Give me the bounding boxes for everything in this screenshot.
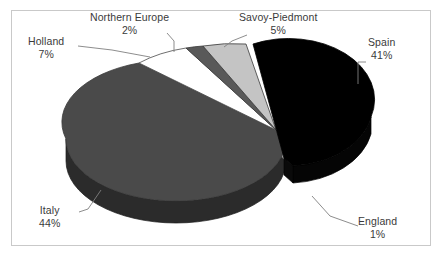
slice-label-italy: Italy 44% xyxy=(39,204,60,229)
slice-label-northern-europe-name: Northern Europe xyxy=(90,11,169,23)
slice-label-northern-europe-value: 2% xyxy=(90,24,169,37)
leader-line-england xyxy=(312,196,358,226)
slice-label-spain-name: Spain xyxy=(368,36,395,48)
slice-label-savoy-piedmont: Savoy-Piedmont 5% xyxy=(239,11,317,36)
slice-label-holland-value: 7% xyxy=(28,48,64,61)
slice-label-holland-name: Holland xyxy=(28,35,64,47)
slice-label-italy-name: Italy xyxy=(40,204,60,216)
slice-label-holland: Holland 7% xyxy=(28,35,64,60)
slice-label-england: England 1% xyxy=(358,215,397,240)
slice-label-savoy-piedmont-name: Savoy-Piedmont xyxy=(239,11,317,23)
slice-label-northern-europe: Northern Europe 2% xyxy=(90,11,169,36)
slice-label-spain-value: 41% xyxy=(368,49,395,62)
slice-label-italy-value: 44% xyxy=(39,217,60,230)
slice-label-england-name: England xyxy=(358,215,397,227)
slice-label-spain: Spain 41% xyxy=(368,36,395,61)
slice-label-savoy-piedmont-value: 5% xyxy=(239,24,317,37)
pie-chart-screenshot: Spain 41% Savoy-Piedmont 5% Northern Eur… xyxy=(0,0,448,266)
leader-line-holland xyxy=(78,46,150,57)
slice-label-england-value: 1% xyxy=(358,228,397,241)
